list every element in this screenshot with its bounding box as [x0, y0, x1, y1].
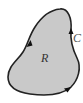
green-theorem-figure: R C	[0, 0, 83, 103]
curve-label: C	[73, 32, 81, 44]
region-label: R	[41, 52, 48, 64]
